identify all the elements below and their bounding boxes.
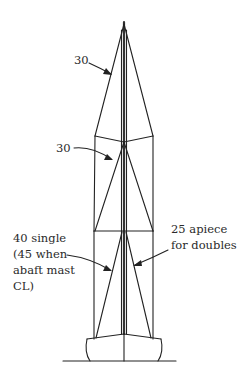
label-lower-single-line1: 40 single: [13, 231, 66, 245]
hull-side-right: [158, 339, 162, 361]
hull-side-left: [86, 339, 90, 361]
label-lower-doubles-line2: for doubles: [171, 238, 237, 252]
intermediate-shroud-left: [95, 142, 124, 231]
cap-shroud-upper-left: [95, 24, 124, 136]
label-lower-single-line4: CL): [13, 279, 34, 293]
label-lower-single-line3: abaft mast: [13, 263, 75, 277]
cap-shroud-upper-right: [124, 24, 153, 136]
intermediate-shroud-right: [124, 142, 153, 231]
lower-shroud-right: [126, 232, 151, 338]
label-lower-doubles-line1: 25 apiece: [171, 222, 227, 236]
arrow-intermediate-shroud: [74, 148, 113, 160]
arrow-lower-doubles: [133, 250, 168, 266]
rig-diagram: 30 30 40 single (45 when abaft mast CL) …: [0, 0, 244, 375]
label-top-cap-shroud: 30: [74, 53, 89, 67]
label-lower-single-line2: (45 when: [13, 247, 68, 261]
label-intermediate-shroud: 30: [56, 141, 71, 155]
arrow-top-cap-shroud: [89, 63, 112, 75]
lower-shroud-left: [96, 232, 122, 338]
